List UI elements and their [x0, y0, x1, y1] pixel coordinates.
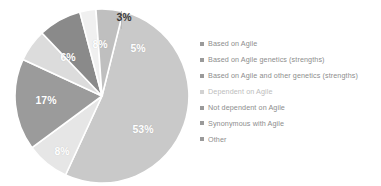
legend-swatch-icon — [200, 58, 204, 62]
legend-item[interactable]: Synonymous with Agile — [200, 115, 378, 131]
legend-swatch-icon — [200, 121, 204, 125]
chart-legend: Based on AgileBased on Agile genetics (s… — [200, 36, 378, 147]
legend-item-label: Based on Agile — [208, 39, 257, 48]
legend-item[interactable]: Dependent on Agile — [200, 84, 378, 100]
legend-item-label: Not dependent on Agile — [208, 103, 285, 112]
legend-item[interactable]: Other — [200, 131, 378, 147]
legend-item[interactable]: Based on Agile genetics (strengths) — [200, 52, 378, 68]
legend-swatch-icon — [200, 106, 204, 110]
pie-slice-value-label: 5% — [130, 42, 145, 54]
legend-item-label: Based on Agile genetics (strengths) — [208, 55, 325, 64]
pie-slice-value-label: 53% — [132, 123, 153, 135]
legend-item-label: Synonymous with Agile — [208, 119, 284, 128]
pie-slice-value-label: 3% — [116, 11, 131, 23]
legend-item[interactable]: Based on Agile and other genetics (stren… — [200, 68, 378, 84]
legend-item[interactable]: Based on Agile — [200, 36, 378, 52]
legend-swatch-icon — [200, 74, 204, 78]
legend-item-label: Other — [208, 135, 226, 144]
legend-swatch-icon — [200, 90, 204, 94]
legend-swatch-icon — [200, 137, 204, 141]
pie-chart-figure: 53%8%17%6%8%3%5% Based on AgileBased on … — [0, 0, 381, 186]
legend-item[interactable]: Not dependent on Agile — [200, 100, 378, 116]
legend-swatch-icon — [200, 42, 204, 46]
pie-slice-value-label: 8% — [54, 145, 69, 157]
legend-item-label: Based on Agile and other genetics (stren… — [208, 71, 358, 80]
pie-slice-value-label: 17% — [35, 94, 56, 106]
pie-slice-value-label: 6% — [60, 51, 75, 63]
pie-slice-value-label: 8% — [92, 38, 107, 50]
pie-chart-plot-area: 53%8%17%6%8%3%5% — [14, 8, 190, 184]
legend-item-label: Dependent on Agile — [208, 87, 273, 96]
